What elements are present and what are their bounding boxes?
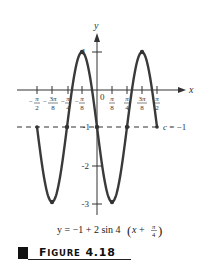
svg-text:π: π <box>80 95 84 103</box>
x-tick-label-neg-3pi-8: − 3π 8 <box>43 95 58 112</box>
x-tick-label-neg-pi-2: − π 2 <box>29 95 40 112</box>
svg-text:8: 8 <box>51 104 55 112</box>
caption-number: 4.18 <box>85 246 115 259</box>
equation-label: y = −1 + 2 sin 4 <box>57 224 121 235</box>
svg-text:3π: 3π <box>138 95 146 103</box>
equation-paren-open: ( <box>127 223 131 238</box>
caption-rule <box>28 259 131 260</box>
caption-word: IGURE <box>47 248 80 258</box>
y-axis-label: y <box>93 20 99 31</box>
equation-paren-close: ) <box>158 223 162 238</box>
x-tick-label-pi-8: π 8 <box>109 95 115 112</box>
svg-text:π: π <box>110 95 114 103</box>
reference-line-label: c = −1 <box>163 122 186 132</box>
equation-pi: π <box>152 223 156 230</box>
svg-text:8: 8 <box>110 104 114 112</box>
svg-text:π: π <box>155 95 159 103</box>
caption-text: FIGURE 4.18 <box>39 246 116 259</box>
y-axis-arrow-icon <box>94 33 100 42</box>
svg-text:π: π <box>35 95 39 103</box>
figure-caption: FIGURE 4.18 <box>18 244 138 264</box>
x-axis-arrow-icon <box>178 87 186 93</box>
x-tick-label-neg-pi-8: − π 8 <box>75 95 85 112</box>
caption-marker <box>18 247 28 259</box>
svg-text:−: − <box>43 98 47 106</box>
x-axis-label: x <box>188 84 194 95</box>
y-tick-label-neg3: -3 <box>82 199 90 209</box>
equation-4: 4 <box>152 231 156 238</box>
svg-text:−: − <box>29 98 33 106</box>
x-tick-label-3pi-8: 3π 8 <box>137 95 147 112</box>
svg-text:−: − <box>61 98 65 106</box>
y-tick-label-neg2: -2 <box>82 161 90 171</box>
svg-text:π: π <box>125 95 129 103</box>
svg-text:8: 8 <box>80 104 84 112</box>
svg-text:−: − <box>75 98 79 106</box>
svg-text:2: 2 <box>35 104 39 112</box>
equation-inner: x + <box>131 224 145 235</box>
function-graph: x y 0 1 -1 -2 -3 − π 2 − 3π <box>0 0 205 240</box>
origin-label: 0 <box>100 92 105 102</box>
svg-text:8: 8 <box>140 104 144 112</box>
svg-text:3π: 3π <box>49 95 57 103</box>
